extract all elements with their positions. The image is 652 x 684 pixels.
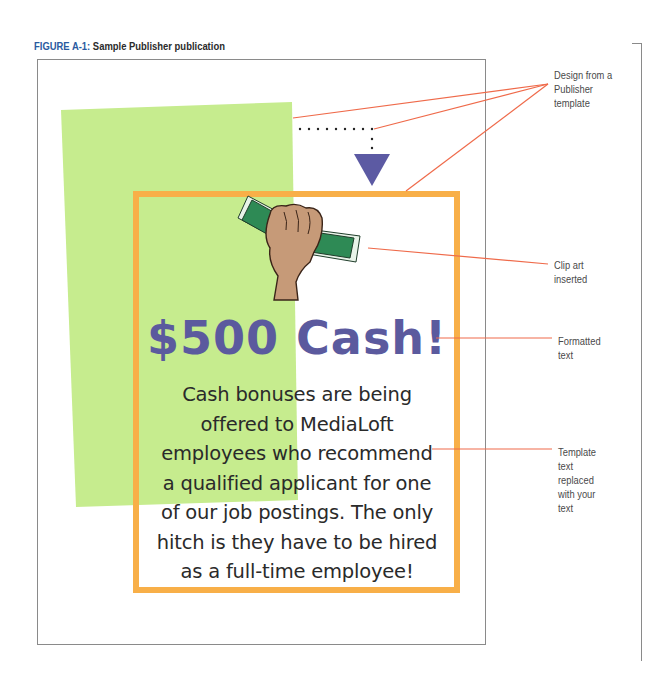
callout-text: with your (558, 487, 596, 501)
callout-text: Formatted (558, 334, 601, 348)
callout-text: replaced (558, 473, 596, 487)
callout-template-text: Template text replaced with your text (558, 445, 596, 515)
callout-text: Design from a (554, 68, 612, 82)
callout-line-clipart (368, 248, 548, 264)
callout-text: text (558, 501, 596, 515)
callout-line-design-2 (374, 84, 548, 129)
callout-formatted: Formatted text (558, 334, 601, 362)
callout-clipart: Clip art inserted (554, 258, 587, 286)
callout-text: Clip art (554, 258, 587, 272)
callout-text: text (558, 348, 601, 362)
callout-text: template (554, 96, 612, 110)
callout-text: text (558, 459, 596, 473)
callout-text: Template (558, 445, 596, 459)
callout-design: Design from a Publisher template (554, 68, 612, 110)
callout-text: Publisher (554, 82, 612, 96)
callout-text: inserted (554, 272, 587, 286)
